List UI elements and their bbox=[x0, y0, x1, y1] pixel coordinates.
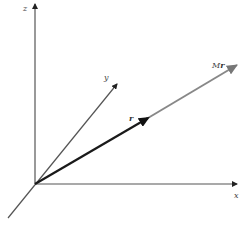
vector-r bbox=[35, 118, 148, 184]
x-axis-label: x bbox=[234, 191, 239, 200]
y-axis bbox=[8, 84, 117, 218]
vector-Mr-label: Mr bbox=[211, 60, 225, 70]
vector-diagram: z x y Mr r bbox=[0, 0, 248, 235]
y-axis-label: y bbox=[103, 73, 109, 82]
vector-Mr bbox=[148, 65, 237, 118]
z-axis-label: z bbox=[22, 4, 28, 13]
vector-r-label: r bbox=[129, 113, 134, 123]
